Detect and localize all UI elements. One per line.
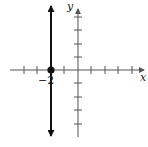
tick-label-neg2: −2 bbox=[38, 74, 54, 87]
x-axis-label: x bbox=[140, 71, 147, 84]
coordinate-plane: −2 x y bbox=[0, 0, 148, 147]
y-axis-label: y bbox=[66, 0, 74, 13]
point-neg2-0 bbox=[47, 66, 54, 73]
